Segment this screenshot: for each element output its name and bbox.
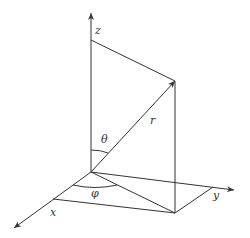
r-vector: [91, 81, 175, 172]
x-foot-line: [53, 199, 175, 213]
y-label: y: [212, 189, 220, 202]
x-label: x: [50, 206, 57, 219]
z-label: z: [94, 24, 101, 37]
r-label: r: [150, 114, 156, 127]
theta-arc: [91, 150, 108, 153]
spherical-coordinates-diagram: z x y r θ φ: [0, 0, 250, 238]
theta-label: θ: [101, 133, 108, 146]
x-axis: [14, 172, 91, 228]
phi-label: φ: [91, 187, 99, 200]
y-foot-line: [175, 187, 213, 213]
xy-projection-line: [91, 172, 175, 213]
z-projection-line: [91, 40, 175, 81]
